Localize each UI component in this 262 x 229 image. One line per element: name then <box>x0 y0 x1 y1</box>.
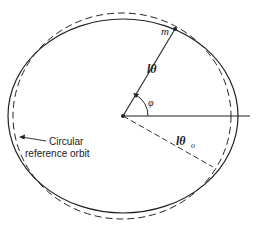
angle-label: φ <box>148 97 154 108</box>
orbit-diagram: m lθ φ lθ o Circular reference orbit <box>0 0 262 229</box>
reference-orbit-label-line1: Circular <box>49 136 84 147</box>
reference-radius-subscript: o <box>191 141 195 150</box>
reference-radius-line <box>123 116 213 167</box>
mass-point <box>173 27 177 31</box>
pointer-arrowhead-icon <box>19 135 25 140</box>
center-point <box>121 114 125 118</box>
reference-orbit-label-line2: reference orbit <box>25 148 90 159</box>
mass-label: m <box>161 25 169 37</box>
angle-arc <box>136 95 148 116</box>
reference-orbit-pointer <box>22 137 46 141</box>
radius-label: lθ <box>147 62 157 76</box>
reference-radius-label: lθ <box>176 134 186 148</box>
